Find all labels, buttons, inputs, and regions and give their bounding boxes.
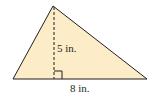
base-label: 8 in. — [70, 83, 90, 94]
triangle-diagram: 5 in. 8 in. — [0, 0, 153, 94]
height-label: 5 in. — [57, 43, 77, 54]
triangle-shape — [13, 6, 147, 79]
